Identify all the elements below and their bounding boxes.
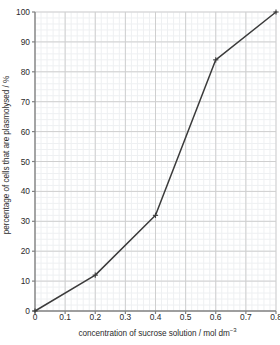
x-tick-label: 0.8: [259, 313, 280, 322]
y-axis-title: percentage of cells that are plasmolysed…: [0, 0, 14, 310]
x-axis-title: concentration of sucrose solution / mol …: [35, 329, 280, 338]
x-axis-title-text: concentration of sucrose solution / mol …: [78, 329, 229, 338]
x-tick-label: 0: [18, 313, 52, 322]
x-tick-label: 0.4: [139, 313, 173, 322]
x-tick-label: 0.5: [169, 313, 203, 322]
x-tick-label: 0.3: [108, 313, 142, 322]
x-axis-title-superscript: −3: [230, 327, 237, 333]
plasmolysis-line-chart: 0102030405060708090100 00.10.20.30.40.50…: [0, 0, 280, 345]
x-tick-label: 0.6: [199, 313, 233, 322]
x-tick-label: 0.2: [78, 313, 112, 322]
plot-area: [0, 0, 280, 345]
x-tick-label: 0.1: [48, 313, 82, 322]
x-tick-label: 0.7: [229, 313, 263, 322]
